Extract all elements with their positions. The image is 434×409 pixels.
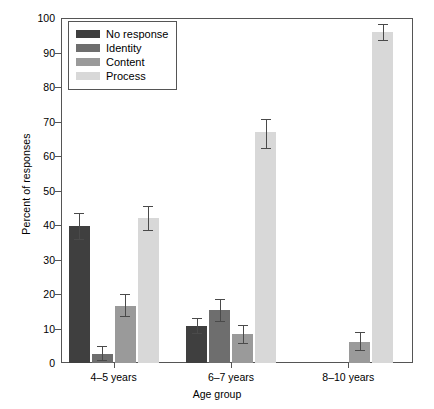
x-axis-group-label: 6–7 years bbox=[208, 371, 254, 383]
x-axis-group-label: 4–5 years bbox=[91, 371, 137, 383]
chart-legend: No responseIdentityContentProcess bbox=[68, 21, 177, 90]
x-axis-tick-mark bbox=[231, 363, 232, 368]
y-axis-tick-label: 20 bbox=[15, 289, 55, 300]
bar bbox=[138, 218, 159, 363]
error-bar-stem bbox=[197, 318, 198, 333]
error-bar-cap-lower bbox=[261, 148, 271, 149]
bar bbox=[372, 32, 393, 363]
error-bar-stem bbox=[125, 294, 126, 316]
error-bar-cap-lower bbox=[120, 316, 130, 317]
legend-label: Process bbox=[106, 71, 146, 82]
y-axis-tick-label: 50 bbox=[15, 185, 55, 196]
error-bar-cap-upper bbox=[355, 332, 365, 333]
error-bar-cap-upper bbox=[143, 206, 153, 207]
legend-item: Identity bbox=[76, 41, 168, 55]
error-bar-cap-lower bbox=[143, 230, 153, 231]
bar-chart: Percent of responses 0102030405060708090… bbox=[0, 0, 434, 409]
error-bar-cap-upper bbox=[192, 318, 202, 319]
legend-label: Identity bbox=[106, 43, 141, 54]
legend-label: No response bbox=[106, 29, 168, 40]
y-axis-tick-label: 10 bbox=[15, 323, 55, 334]
error-bar-stem bbox=[383, 24, 384, 41]
error-bar-stem bbox=[148, 206, 149, 229]
legend-swatch-icon bbox=[76, 44, 100, 52]
error-bar-cap-lower bbox=[97, 360, 107, 361]
legend-swatch-icon bbox=[76, 58, 100, 66]
error-bar-stem bbox=[220, 299, 221, 321]
y-axis-tick-label: 100 bbox=[15, 13, 55, 24]
legend-swatch-icon bbox=[76, 72, 100, 80]
y-axis-tick-label: 90 bbox=[15, 47, 55, 58]
x-axis-group-label: 8–10 years bbox=[322, 371, 374, 383]
y-axis-tick-label: 30 bbox=[15, 254, 55, 265]
error-bar-cap-lower bbox=[378, 40, 388, 41]
x-axis-tick-mark bbox=[114, 363, 115, 368]
error-bar-stem bbox=[266, 119, 267, 148]
error-bar-cap-upper bbox=[120, 294, 130, 295]
error-bar-cap-lower bbox=[238, 343, 248, 344]
y-axis-tick-label: 70 bbox=[15, 116, 55, 127]
error-bar-stem bbox=[102, 346, 103, 360]
legend-item: No response bbox=[76, 27, 168, 41]
bar bbox=[255, 132, 276, 363]
error-bar-cap-lower bbox=[215, 321, 225, 322]
x-axis-tick-mark bbox=[348, 363, 349, 368]
legend-item: Content bbox=[76, 55, 168, 69]
legend-swatch-icon bbox=[76, 30, 100, 38]
y-axis-tick-label: 80 bbox=[15, 82, 55, 93]
error-bar-cap-upper bbox=[378, 24, 388, 25]
y-axis-tick-label: 40 bbox=[15, 220, 55, 231]
error-bar-cap-upper bbox=[215, 299, 225, 300]
error-bar-cap-upper bbox=[74, 213, 84, 214]
error-bar-cap-upper bbox=[238, 325, 248, 326]
error-bar-cap-upper bbox=[261, 119, 271, 120]
error-bar-cap-lower bbox=[74, 239, 84, 240]
legend-item: Process bbox=[76, 69, 168, 83]
x-axis-title: Age group bbox=[0, 388, 434, 400]
bar bbox=[69, 226, 90, 363]
error-bar-cap-lower bbox=[192, 333, 202, 334]
error-bar-stem bbox=[79, 213, 80, 240]
y-axis-tick-label: 60 bbox=[15, 151, 55, 162]
error-bar-stem bbox=[360, 332, 361, 350]
error-bar-cap-upper bbox=[97, 346, 107, 347]
legend-label: Content bbox=[106, 57, 145, 68]
error-bar-cap-lower bbox=[355, 350, 365, 351]
error-bar-stem bbox=[243, 325, 244, 343]
y-axis-tick-label: 0 bbox=[15, 358, 55, 369]
